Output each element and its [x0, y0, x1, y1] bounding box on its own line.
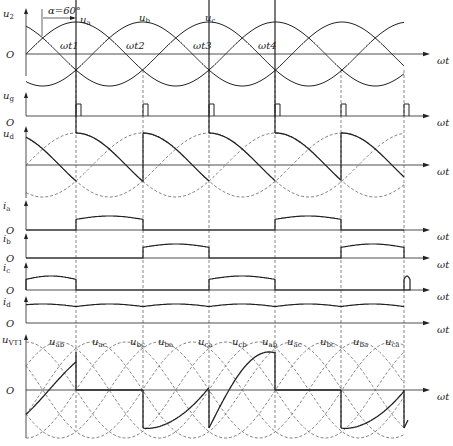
panel-label-u2: u2	[3, 8, 14, 21]
panel-label-uVT1: uVT1	[2, 334, 23, 347]
line-voltage-label: uab	[49, 336, 65, 349]
gate-pulse	[404, 104, 409, 116]
current-waveform	[26, 276, 410, 290]
axis-arrow-icon	[423, 256, 430, 260]
x-axis-label: ωt	[437, 117, 450, 128]
gate-pulse	[209, 104, 214, 116]
axis-arrow-icon	[24, 126, 28, 132]
gate-pulse	[76, 104, 81, 116]
load-current-waveform	[26, 304, 404, 307]
panel-label-ug: ug	[3, 90, 14, 103]
origin-label: O	[6, 385, 14, 396]
waveform	[143, 388, 209, 429]
x-axis-label: ωt	[437, 55, 450, 66]
origin-label: O	[6, 318, 14, 329]
phase-label-ub: ub	[139, 12, 150, 25]
waveform-diagram: ωtOu2α=60°uaubucωt1ωt2ωt3ωt4ωtOugωtudωtO…	[0, 0, 453, 446]
axis-arrow-icon	[24, 334, 28, 340]
x-axis-label: ωt	[437, 324, 450, 335]
gate-pulse	[143, 104, 148, 116]
gate-pulse	[275, 104, 280, 116]
phase-label-uc: uc	[205, 12, 215, 25]
line-voltage-label: uac	[92, 336, 107, 349]
axis-arrow-icon	[423, 228, 430, 232]
line-voltage-label: uca	[385, 336, 400, 349]
axis-arrow-icon	[24, 262, 28, 268]
phase-label-ua: ua	[80, 14, 91, 27]
panel-label-ia: ia	[3, 200, 10, 213]
axis-arrow-icon	[24, 296, 28, 302]
waveform	[143, 133, 209, 181]
waveform	[26, 362, 76, 415]
axis-arrow-icon	[423, 52, 430, 56]
axis-arrow-icon	[423, 321, 430, 325]
origin-label: O	[6, 117, 14, 128]
panel-label-ud: ud	[3, 128, 14, 141]
waveform	[341, 133, 404, 177]
arrow-icon	[70, 16, 76, 20]
axis-arrow-icon	[24, 200, 28, 206]
origin-label: O	[6, 49, 14, 60]
line-voltage-label: ubc	[320, 336, 335, 349]
line-voltage-label: ucb	[232, 336, 247, 349]
axis-arrow-icon	[423, 114, 430, 118]
gate-pulse	[341, 104, 346, 116]
instant-label: ωt2	[126, 40, 145, 51]
panel-label-id: id	[3, 296, 11, 309]
line-voltage-label: uca	[198, 336, 213, 349]
x-axis-label: ωt	[437, 231, 450, 242]
x-axis-label: ωt	[437, 259, 450, 270]
line-voltage-label: uba	[353, 336, 368, 349]
waveform	[26, 137, 76, 181]
current-waveform	[26, 244, 404, 258]
origin-label: O	[6, 253, 14, 264]
line-voltage-label: uac	[287, 336, 302, 349]
instant-label: ωt4	[258, 40, 277, 51]
axis-arrow-icon	[24, 8, 28, 14]
waveform	[209, 133, 275, 181]
x-axis-label: ωt	[437, 391, 450, 402]
axis-arrow-icon	[24, 92, 28, 98]
waveform	[76, 133, 143, 181]
axis-arrow-icon	[423, 163, 430, 167]
x-axis-label: ωt	[437, 166, 450, 177]
axis-arrow-icon	[24, 233, 28, 239]
x-axis-label: ωt	[437, 291, 450, 302]
waveform	[275, 133, 341, 180]
axis-arrow-icon	[423, 288, 430, 292]
axis-arrow-icon	[423, 388, 430, 392]
waveform	[341, 391, 404, 428]
line-voltage-label: uba	[158, 336, 173, 349]
origin-label: O	[6, 285, 14, 296]
origin-label: O	[6, 225, 14, 236]
current-waveform	[26, 216, 404, 230]
